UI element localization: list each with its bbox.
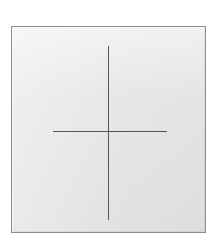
image-canvas: [0, 0, 218, 247]
crosshair-horizontal-line: [53, 131, 167, 132]
crosshair-panel: [11, 26, 206, 233]
crosshair-vertical-line: [108, 46, 109, 220]
